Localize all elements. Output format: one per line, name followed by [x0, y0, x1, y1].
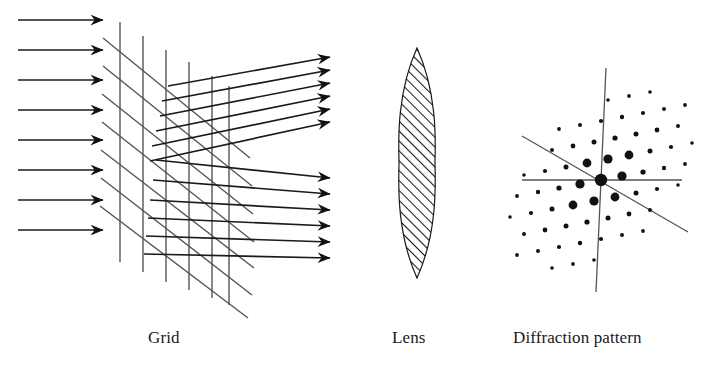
diffraction-spot: [634, 132, 639, 137]
diffraction-spot: [595, 174, 607, 186]
diffraction-spot: [611, 193, 620, 202]
incident-plane-wave: [18, 20, 103, 230]
diffraction-spot: [592, 258, 596, 262]
diffraction-spot: [522, 173, 526, 177]
diffraction-spot: [556, 185, 561, 190]
diffraction-spot: [676, 124, 680, 128]
diffraction-spot: [550, 207, 555, 212]
diffraction-spot: [627, 212, 632, 217]
diffraction-spot: [578, 241, 582, 245]
lens-outline: [399, 48, 436, 278]
grid-diagonal-line: [100, 206, 248, 318]
diffraction-spot: [625, 151, 634, 160]
diffraction-spot: [592, 140, 597, 145]
diffraction-spot: [655, 187, 659, 191]
diffraction-spot: [634, 191, 639, 196]
figure-page: Grid Lens Diffraction pattern: [0, 0, 706, 367]
diffraction-spot: [683, 162, 687, 166]
diffraction-spot: [515, 253, 519, 257]
diffraction-spot: [676, 183, 680, 187]
diffraction-spot: [641, 111, 645, 115]
diffraction-spot: [612, 135, 617, 140]
diffraction-spot: [536, 249, 540, 253]
diffracted-ray-arrow-upper: [160, 83, 330, 116]
diffraction-spot: [569, 201, 578, 210]
diffraction-spot: [564, 165, 569, 170]
diffraction-spot: [583, 159, 592, 168]
diffracted-ray-arrow-upper: [162, 70, 330, 101]
caption-grid: Grid: [148, 328, 180, 348]
diffraction-spot: [690, 141, 694, 145]
diffracted-ray-arrow-upper: [156, 96, 330, 131]
diffraction-spot: [508, 215, 512, 219]
diffraction-spot: [603, 154, 612, 163]
diffraction-spot: [620, 233, 624, 237]
diffracted-ray-arrow-lower: [156, 160, 330, 178]
diffraction-spot: [550, 266, 554, 270]
diffraction-spot: [662, 107, 666, 111]
diffracted-ray-arrow-lower: [146, 236, 330, 242]
diffraction-spot: [617, 171, 626, 180]
diffraction-spot: [550, 148, 554, 152]
diffraction-spot: [627, 94, 631, 98]
caption-lens: Lens: [392, 328, 425, 348]
diffraction-spot: [648, 208, 652, 212]
diffraction-spot: [606, 98, 610, 102]
diffraction-spot: [564, 224, 569, 229]
grid-diagonal-lines: [100, 38, 254, 318]
diffraction-spot: [606, 216, 611, 221]
diffraction-spot: [589, 196, 598, 205]
diffracted-ray-arrow-lower: [148, 218, 330, 226]
diffraction-spot: [640, 169, 645, 174]
biconvex-lens: [399, 48, 436, 278]
upper-diffracted-order: [150, 57, 330, 161]
diffraction-spot: [536, 190, 540, 194]
diffraction-figure: [0, 0, 706, 367]
diffraction-spot: [515, 194, 519, 198]
diffraction-spot: [655, 128, 660, 133]
diffraction-spot: [648, 149, 653, 154]
caption-diffraction: Diffraction pattern: [513, 328, 642, 348]
diffraction-spot: [599, 119, 603, 123]
diffracted-ray-arrow-upper: [168, 57, 330, 86]
diffraction-spot: [669, 145, 673, 149]
diffracted-ray-arrow-lower: [153, 180, 330, 194]
diffraction-spot: [648, 90, 652, 94]
diffraction-spot: [522, 232, 526, 236]
diffraction-spot: [575, 179, 584, 188]
diffraction-spot: [543, 169, 547, 173]
diffraction-spot: [662, 166, 666, 170]
diffraction-spot: [557, 127, 561, 131]
diffraction-spot: [578, 123, 582, 127]
diffraction-spot: [599, 237, 603, 241]
diffraction-spot: [571, 144, 576, 149]
diffraction-spot: [529, 211, 533, 215]
diffraction-spot: [620, 115, 624, 119]
diffraction-spot: [571, 262, 575, 266]
diffraction-spot: [557, 245, 561, 249]
diffraction-spot: [641, 229, 645, 233]
diffraction-spot: [584, 219, 589, 224]
diffraction-spot: [683, 103, 687, 107]
diffraction-spot: [543, 228, 548, 233]
